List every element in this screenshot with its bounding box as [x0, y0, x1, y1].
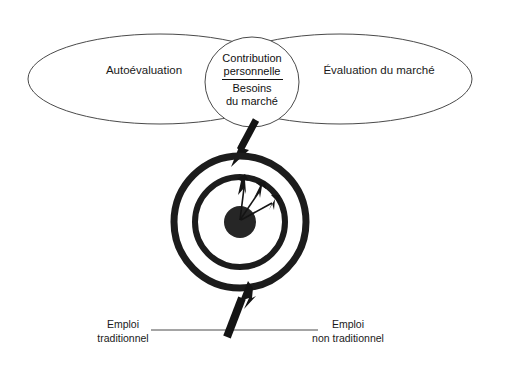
label-emploi-non-traditionnel-line2: non traditionnel: [312, 332, 384, 344]
label-emploi-non-traditionnel-line1: Emploi: [332, 318, 364, 330]
label-contribution-line2: personnelle: [224, 65, 281, 77]
label-emploi-traditionnel-line1: Emploi: [107, 318, 139, 330]
target-bullseye: [224, 206, 256, 238]
label-contribution-line1: Contribution: [222, 52, 281, 64]
career-fit-diagram: Autoévaluation Évaluation du marché Cont…: [0, 0, 520, 366]
diagram-canvas: Autoévaluation Évaluation du marché Cont…: [0, 0, 520, 366]
label-besoins-line1: Besoins: [232, 82, 272, 94]
label-besoins-line2: du marché: [226, 95, 278, 107]
label-emploi-traditionnel-line2: traditionnel: [97, 332, 148, 344]
label-evaluation-marche: Évaluation du marché: [323, 64, 434, 76]
label-autoevaluation: Autoévaluation: [106, 64, 182, 76]
